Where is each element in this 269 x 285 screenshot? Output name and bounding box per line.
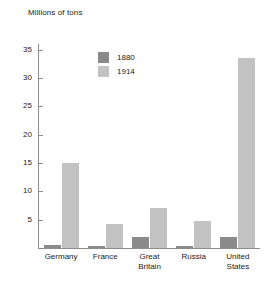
plot-area <box>39 44 260 248</box>
x-label-line: States <box>208 262 268 272</box>
bar-france-1914[interactable] <box>106 224 123 248</box>
y-tick-label-25: 25 <box>8 102 32 110</box>
y-tick-label-30: 30 <box>8 74 32 82</box>
y-tick-label-15: 15 <box>8 159 32 167</box>
bar-russia-1880[interactable] <box>176 246 193 248</box>
bar-united-states-1880[interactable] <box>220 237 237 248</box>
bar-united-states-1914[interactable] <box>238 58 255 248</box>
bar-france-1880[interactable] <box>88 246 105 248</box>
bar-chart: Millions of tons 5101520253035 18801914 … <box>0 0 269 285</box>
x-label-line: Britain <box>120 262 180 272</box>
y-tick-label-35: 35 <box>8 46 32 54</box>
x-label-line: United <box>208 252 268 262</box>
bar-group-russia <box>172 44 216 248</box>
bar-germany-1914[interactable] <box>62 163 79 248</box>
chart-title: Millions of tons <box>28 8 83 17</box>
y-tick-label-10: 10 <box>8 187 32 195</box>
y-tick-label-5: 5 <box>8 216 32 224</box>
bar-group-great-britain <box>127 44 171 248</box>
y-tick-label-20: 20 <box>8 131 32 139</box>
x-label-united-states: UnitedStates <box>208 252 268 272</box>
bar-germany-1880[interactable] <box>44 245 61 248</box>
x-axis-line <box>38 248 260 249</box>
bar-great-britain-1880[interactable] <box>132 237 149 248</box>
bar-group-france <box>83 44 127 248</box>
bar-group-united-states <box>216 44 260 248</box>
bar-group-germany <box>39 44 83 248</box>
bar-russia-1914[interactable] <box>194 221 211 248</box>
bar-great-britain-1914[interactable] <box>150 208 167 248</box>
